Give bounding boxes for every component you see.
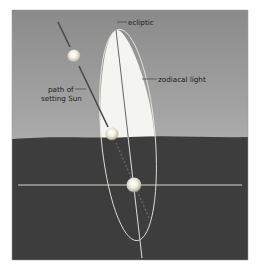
ecliptic-label: ecliptic [128, 18, 154, 27]
sun-path-label-line2: setting Sun [41, 94, 82, 103]
sun-at-horizon-icon [106, 128, 119, 141]
sun-above-horizon-icon [68, 50, 81, 63]
zodiacal-light-diagram: ecliptic zodiacal light path of setting … [0, 0, 261, 275]
sun-path-label-line1: path of [48, 85, 74, 94]
sun-below-horizon-icon [127, 178, 142, 193]
zodiacal-light-label: zodiacal light [158, 75, 206, 84]
